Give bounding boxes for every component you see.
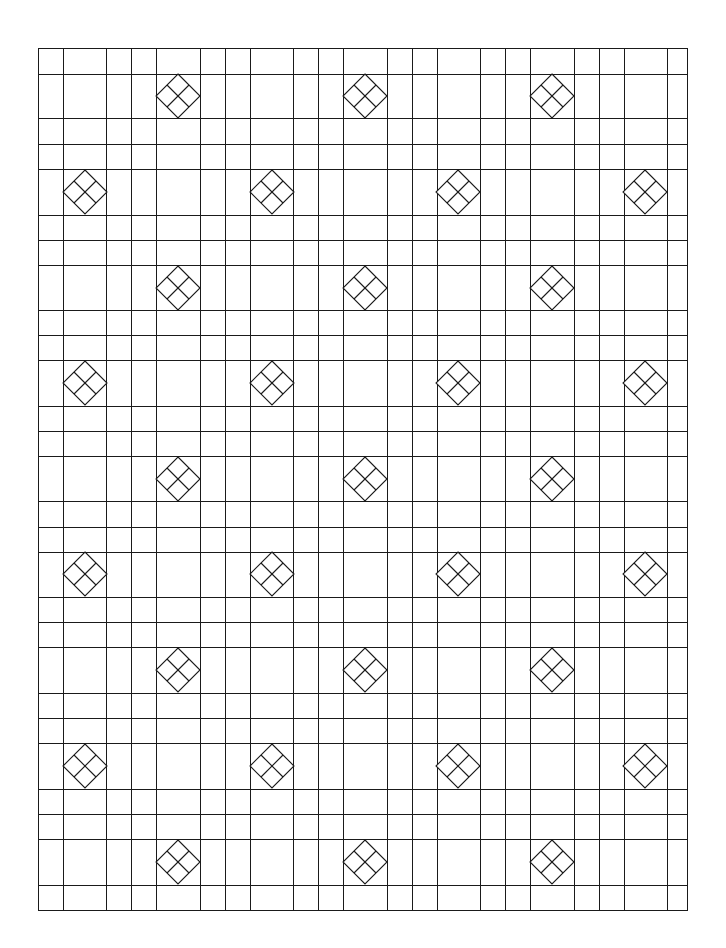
grid-pattern-canvas	[0, 0, 726, 948]
